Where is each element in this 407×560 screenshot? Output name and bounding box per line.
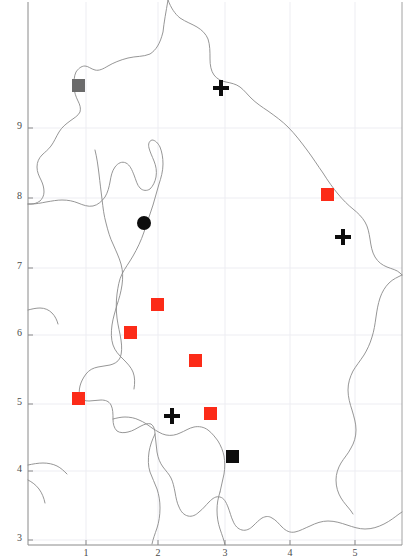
x-tick-label-4: 4	[280, 548, 300, 558]
data-point-red-square[interactable]	[321, 188, 334, 201]
x-tick-label-5: 5	[345, 548, 365, 558]
plot-area: 9 8 7 6 5 4 3 1 2 3 4 5	[0, 0, 407, 560]
map-figure: 9 8 7 6 5 4 3 1 2 3 4 5	[0, 0, 407, 560]
data-point-black-circle[interactable]	[137, 216, 151, 230]
y-tick-label-5: 5	[8, 397, 22, 407]
y-tick-label-7: 7	[8, 261, 22, 271]
y-tick-label-8: 8	[8, 191, 22, 201]
x-tick-label-1: 1	[76, 548, 96, 558]
data-point-red-square[interactable]	[72, 392, 85, 405]
y-tick-label-9: 9	[8, 121, 22, 131]
plus-vertical-bar	[170, 408, 174, 424]
data-point-red-square[interactable]	[124, 326, 137, 339]
data-point-gray-square[interactable]	[72, 79, 85, 92]
data-point-plus-icon[interactable]	[335, 229, 351, 245]
y-tick-label-3: 3	[8, 533, 22, 543]
map-canvas	[0, 0, 407, 560]
data-point-red-square[interactable]	[189, 354, 202, 367]
x-tick-label-2: 2	[148, 548, 168, 558]
data-point-plus-icon[interactable]	[164, 408, 180, 424]
plus-vertical-bar	[219, 80, 223, 96]
plus-vertical-bar	[341, 229, 345, 245]
axis-ticks	[28, 128, 355, 545]
data-point-red-square[interactable]	[151, 298, 164, 311]
x-tick-label-3: 3	[215, 548, 235, 558]
y-tick-label-4: 4	[8, 464, 22, 474]
data-point-plus-icon[interactable]	[213, 80, 229, 96]
y-tick-label-6: 6	[8, 328, 22, 338]
data-point-black-square[interactable]	[226, 450, 239, 463]
data-point-red-square[interactable]	[204, 407, 217, 420]
